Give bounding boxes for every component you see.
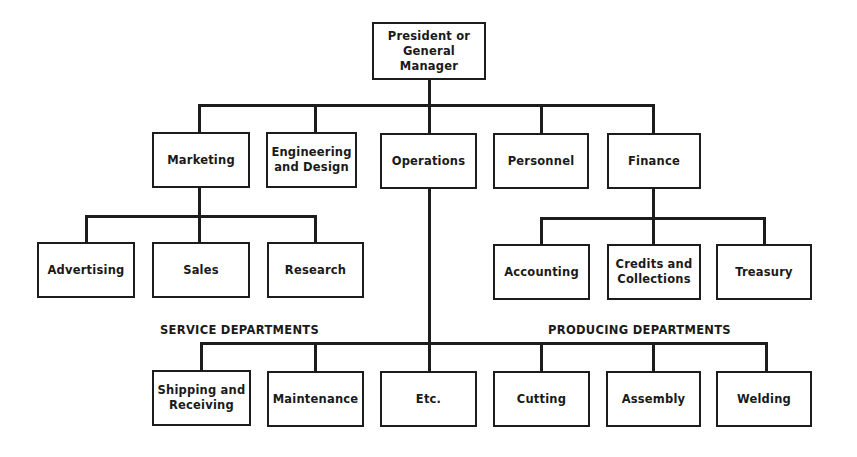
connector-operations (428, 104, 431, 133)
org-chart: SERVICE DEPARTMENTS PRODUCING DEPARTMENT… (0, 0, 857, 457)
connector-finance-down (652, 187, 655, 219)
node-research: Research (267, 242, 364, 298)
connector-president (428, 79, 431, 106)
node-assembly: Assembly (606, 371, 701, 427)
connector-accounting (540, 217, 543, 245)
connector-assembly (652, 342, 655, 371)
connector-marketing-bar (85, 215, 317, 218)
node-etc: Etc. (380, 371, 477, 427)
connector-operations-bar (200, 342, 768, 345)
node-cutting: Cutting (493, 371, 590, 427)
connector-marketing-down (198, 187, 201, 217)
connector-advertising (85, 215, 88, 243)
node-sales: Sales (152, 242, 250, 298)
connector-maintenance (314, 342, 317, 371)
node-maintenance: Maintenance (267, 371, 364, 427)
connector-welding (765, 342, 768, 371)
connector-etc (428, 342, 431, 371)
connector-marketing (198, 104, 201, 133)
connector-treasury (763, 217, 766, 245)
node-accounting: Accounting (493, 244, 590, 300)
node-marketing: Marketing (152, 132, 250, 188)
connector-shipping (200, 342, 203, 371)
connector-personnel (540, 104, 543, 133)
producing-departments-label: PRODUCING DEPARTMENTS (548, 323, 731, 337)
connector-finance (652, 104, 655, 133)
connector-sales (198, 215, 201, 243)
node-finance: Finance (607, 133, 701, 189)
node-advertising: Advertising (37, 242, 135, 298)
connector-level1-bar (198, 104, 654, 107)
node-president: President or General Manager (372, 22, 486, 80)
node-welding: Welding (716, 371, 812, 427)
connector-engineering (314, 104, 317, 133)
node-treasury: Treasury (716, 244, 812, 300)
connector-cutting (540, 342, 543, 371)
connector-operations-down (428, 187, 431, 345)
connector-credits (652, 217, 655, 245)
node-operations: Operations (380, 133, 477, 189)
node-personnel: Personnel (493, 133, 589, 189)
connector-research (314, 215, 317, 243)
node-engineering: Engineering and Design (266, 132, 357, 188)
node-shipping: Shipping and Receiving (152, 370, 251, 426)
service-departments-label: SERVICE DEPARTMENTS (160, 323, 319, 337)
node-credits: Credits and Collections (607, 244, 701, 300)
